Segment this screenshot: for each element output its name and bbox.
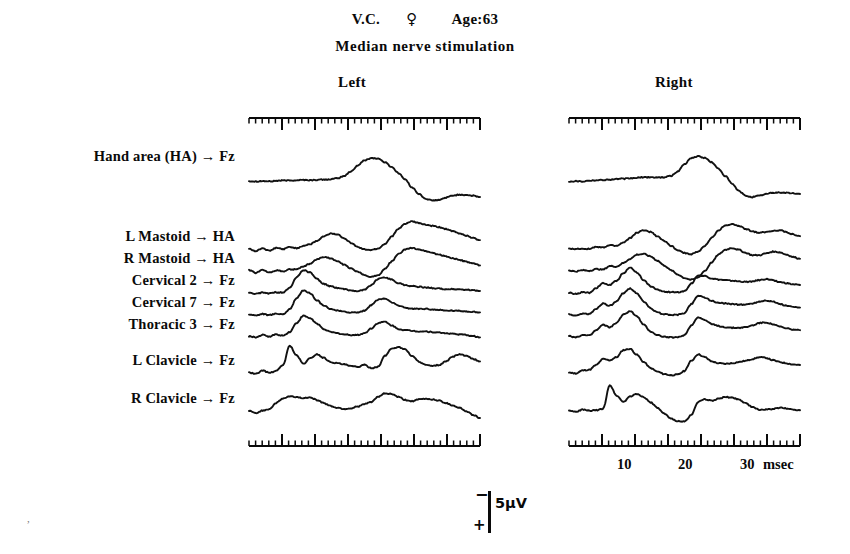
female-symbol-icon: ♀ (406, 10, 417, 28)
waveform-plot-left (243, 110, 486, 450)
waveform-trace (569, 224, 800, 255)
waveform-plot-right (563, 110, 806, 450)
channel-label-r-clavicle-fz: R Clavicle → Fz (131, 390, 235, 407)
channel-label-l-clavicle-fz: L Clavicle → Fz (133, 352, 235, 369)
calibration-bar-line (488, 491, 491, 533)
figure-canvas: V.C.♀Age:63 Median nerve stimulation Lef… (0, 0, 850, 554)
time-axis-unit: msec (763, 456, 794, 473)
waveform-trace (249, 248, 480, 277)
waveform-trace (249, 158, 480, 201)
waveform-trace (569, 311, 800, 338)
calibration-bar: − + 5μV (470, 487, 590, 547)
waveform-trace (249, 393, 480, 418)
waveform-trace (569, 156, 800, 198)
polarity-positive-label: + (473, 516, 486, 534)
page-artifact-mark: , (27, 512, 32, 517)
waveform-panel-right (563, 110, 806, 450)
channel-label-hand-area-fz: Hand area (HA) → Fz (94, 148, 235, 165)
study-title: Median nerve stimulation (0, 38, 850, 55)
waveform-trace (569, 288, 800, 315)
channel-label-cervical-7-fz: Cervical 7 → Fz (132, 294, 235, 311)
channel-label-l-mastoid-ha: L Mastoid → HA (125, 228, 235, 245)
time-tick-label-10: 10 (617, 456, 632, 473)
waveform-panel-left (243, 110, 486, 450)
waveform-trace (249, 270, 480, 294)
waveform-trace (249, 315, 480, 337)
waveform-trace (569, 268, 800, 295)
time-tick-label-30: 30 (740, 456, 755, 473)
panel-heading-right: Right (655, 74, 693, 91)
subject-age: Age:63 (451, 11, 498, 27)
waveform-trace (249, 290, 480, 315)
waveform-trace (249, 346, 480, 374)
channel-label-thoracic-3-fz: Thoracic 3 → Fz (129, 316, 236, 333)
calibration-amplitude-label: 5μV (495, 495, 527, 511)
subject-initials: V.C. (352, 11, 380, 27)
time-tick-label-20: 20 (678, 456, 693, 473)
channel-label-cervical-2-fz: Cervical 2 → Fz (132, 272, 235, 289)
waveform-trace (249, 221, 480, 251)
subject-header: V.C.♀Age:63 (0, 10, 850, 28)
waveform-trace (569, 349, 800, 376)
channel-label-r-mastoid-ha: R Mastoid → HA (124, 250, 235, 267)
polarity-negative-label: − (475, 485, 488, 504)
panel-heading-left: Left (338, 74, 366, 91)
waveform-trace (569, 385, 800, 422)
